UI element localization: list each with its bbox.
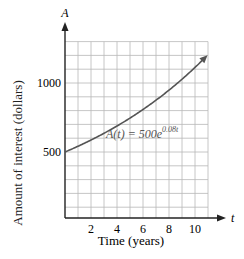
chart: 2468105001000 A t Time (years) A(t) = 50… <box>0 0 244 259</box>
y-axis-label: Amount of interest (dollars) <box>10 80 26 226</box>
x-tick-label: 10 <box>189 222 201 236</box>
x-axis-arrow-icon <box>217 215 226 222</box>
tick-labels: 2468105001000 <box>37 76 201 236</box>
y-axis-label-wrap: Amount of interest (dollars) <box>8 78 28 228</box>
formula-main: A(t) = 500e <box>105 127 163 141</box>
x-tick-label: 2 <box>88 222 94 236</box>
x-axis-symbol: t <box>231 211 235 225</box>
y-axis-arrow-icon <box>62 22 69 31</box>
y-tick-label: 500 <box>43 145 61 159</box>
x-axis-label: Time (years) <box>98 233 164 248</box>
axes <box>62 22 227 222</box>
curve-formula-label: A(t) = 500e0.08t <box>105 125 179 141</box>
y-axis-symbol: A <box>60 6 69 20</box>
x-tick-label: 8 <box>166 222 172 236</box>
formula-exponent: 0.08t <box>162 125 179 134</box>
y-tick-label: 1000 <box>37 76 61 90</box>
